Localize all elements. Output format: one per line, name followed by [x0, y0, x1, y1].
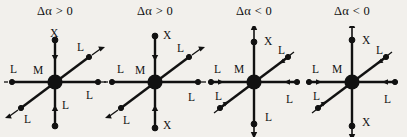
panel-2: Δα > 0	[104, 0, 206, 137]
panel-4-label-left: L	[312, 64, 319, 76]
panel-1: Δα > 0	[4, 0, 106, 137]
panel-3-diagram: X L L L L L M	[203, 26, 305, 137]
panel-2-title: Δα > 0	[104, 4, 206, 18]
panel-1-title: Δα > 0	[4, 4, 106, 18]
panel-2-label-lower-left: L	[123, 115, 130, 127]
panel-3-label-lower-left: L	[215, 91, 222, 103]
panel-2-diagram: X X L L L L M	[104, 26, 206, 137]
panel-3-label-center: M	[234, 64, 244, 76]
panel-3: Δα < 0	[203, 0, 305, 137]
panel-4-label-upper-right: L	[376, 45, 383, 57]
panel-4-label-lower-left: L	[313, 91, 320, 103]
panel-1-label-top: X	[50, 28, 58, 40]
panel-4-title: Δα < 0	[301, 4, 403, 18]
panel-3-label-right: L	[286, 94, 293, 106]
panel-3-label-bottom: L	[265, 112, 272, 124]
panel-2-label-center: M	[135, 65, 145, 77]
figure-vibrational-modes: Δα > 0	[0, 0, 407, 137]
panel-3-label-left: L	[214, 64, 221, 76]
panel-2-label-left: L	[117, 64, 124, 76]
panel-1-label-bottom: L	[62, 100, 69, 112]
panel-1-label-left: L	[10, 64, 17, 76]
panel-4-diagram: X X L L L L M	[301, 26, 403, 137]
panel-2-label-upper-right: L	[177, 43, 184, 55]
panel-1-diagram: X L L L L L M	[4, 26, 106, 137]
panel-4: Δα < 0	[301, 0, 403, 137]
panel-1-label-lower-left: L	[24, 114, 31, 126]
panel-4-label-right: L	[384, 94, 391, 106]
panel-3-label-upper-right: L	[278, 45, 285, 57]
panel-2-label-bottom: X	[163, 120, 171, 132]
panel-2-label-right: L	[188, 92, 195, 104]
panel-1-label-right: L	[86, 90, 93, 102]
panel-3-title: Δα < 0	[203, 4, 305, 18]
panel-2-label-top: X	[163, 30, 171, 42]
panel-3-label-top: X	[264, 36, 272, 48]
panel-4-label-top: X	[362, 35, 370, 47]
panel-1-label-center: M	[33, 65, 43, 77]
panel-1-label-upper-right: L	[77, 42, 84, 54]
panel-4-label-bottom: X	[362, 117, 370, 129]
panel-4-label-center: M	[332, 64, 342, 76]
